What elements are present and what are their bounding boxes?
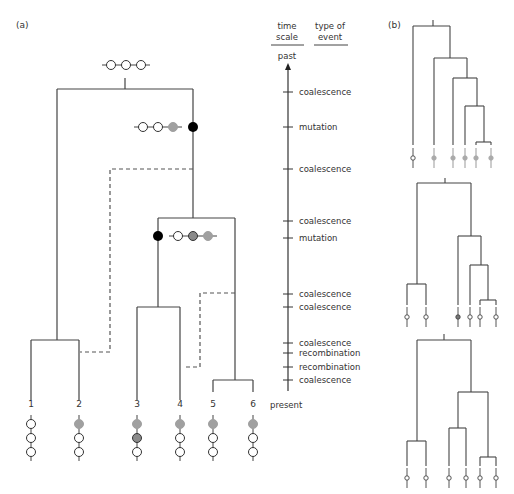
local-trees-b — [407, 20, 496, 466]
tree2-leaf-marker — [405, 307, 409, 327]
tree3-leaf-marker — [405, 468, 409, 488]
recombination-path-2 — [183, 293, 235, 367]
allele-white — [249, 448, 258, 457]
tree3-leaf-marker — [464, 468, 468, 488]
header-event-line1: type of — [315, 21, 346, 31]
mutation-dot-1 — [188, 122, 198, 132]
allele-white — [176, 434, 185, 443]
leaf-haplotype-6 — [249, 415, 258, 461]
panel-b-label: (b) — [388, 20, 401, 30]
leaf-haplotype-3 — [133, 415, 142, 461]
tree1-leaf-marker — [474, 148, 478, 168]
mutation1-haplotype — [134, 123, 182, 132]
local-tree-3 — [407, 334, 496, 466]
leaf-label-3: 3 — [134, 399, 140, 409]
allele-white — [75, 448, 84, 457]
allele-grey — [204, 232, 213, 241]
local-tree-1 — [413, 20, 491, 145]
allele-grey — [176, 420, 185, 429]
allele-white — [174, 232, 183, 241]
allele-grey — [75, 420, 84, 429]
leaf-haplotype-2 — [75, 415, 84, 461]
event-label-recombination: recombination — [299, 362, 360, 372]
leaf-label-6: 6 — [250, 399, 256, 409]
event-label-coalescence: coalescence — [299, 216, 351, 226]
past-label: past — [278, 51, 297, 61]
allele-white — [27, 420, 36, 429]
tree2-leaf-marker — [424, 307, 428, 327]
allele-darkgrey — [133, 434, 142, 443]
leaf-label-2: 2 — [76, 399, 82, 409]
allele-white — [154, 123, 163, 132]
event-label-coalescence: coalescence — [299, 375, 351, 385]
tree1-leaf-marker — [432, 148, 436, 168]
tree2-leaf-marker — [456, 307, 460, 327]
mutation-dot-2 — [153, 231, 163, 241]
panel-a-label: (a) — [16, 20, 29, 30]
allele-white — [139, 123, 148, 132]
event-label-coalescence: coalescence — [299, 338, 351, 348]
allele-white — [137, 61, 146, 70]
tree1-leaf-marker — [463, 148, 467, 168]
allele-grey — [249, 420, 258, 429]
event-label-coalescence: coalescence — [299, 289, 351, 299]
header-event-line2: event — [318, 32, 343, 42]
allele-white — [133, 448, 142, 457]
tree2-leaf-marker — [468, 307, 472, 327]
leaf-haplotype-4 — [176, 415, 185, 461]
allele-white — [27, 434, 36, 443]
tree3-leaf-marker — [447, 468, 451, 488]
tree3-leaf-marker — [424, 468, 428, 488]
leaf-haplotype-1 — [27, 415, 36, 461]
tree1-leaf-marker — [411, 148, 415, 168]
tree2-leaf-marker — [478, 307, 482, 327]
event-label-coalescence: coalescence — [299, 87, 351, 97]
allele-white — [75, 434, 84, 443]
allele-white — [209, 448, 218, 457]
event-label-mutation: mutation — [299, 122, 338, 132]
allele-white — [122, 61, 131, 70]
time-scale: time scale type of event past coalescenc… — [270, 21, 360, 410]
leaf-haplotype-5 — [209, 415, 218, 461]
leaf-label-5: 5 — [210, 399, 216, 409]
tree2-leaf-marker — [494, 307, 498, 327]
allele-darkgrey — [189, 232, 198, 241]
allele-grey — [169, 123, 178, 132]
event-label-coalescence: coalescence — [299, 164, 351, 174]
allele-grey — [133, 420, 142, 429]
event-label-recombination: recombination — [299, 348, 360, 358]
figure: (a) (b) 1 2 — [0, 0, 514, 494]
tree3-leaf-marker — [494, 468, 498, 488]
tree3-leaf-marker — [478, 468, 482, 488]
allele-white — [176, 448, 185, 457]
header-time-line1: time — [277, 21, 296, 31]
leaf-labels: 1 2 3 4 5 6 — [28, 399, 256, 409]
tree1-leaf-marker — [451, 148, 455, 168]
header-time-line2: scale — [276, 32, 298, 42]
allele-white — [107, 61, 116, 70]
local-tree-2 — [407, 178, 496, 305]
allele-grey — [209, 420, 218, 429]
allele-white — [209, 434, 218, 443]
present-label: present — [270, 400, 303, 410]
ancestral-haplotype — [102, 61, 150, 70]
local-tree-leaf-markers — [405, 148, 498, 488]
leaf-label-1: 1 — [28, 399, 34, 409]
allele-white — [27, 448, 36, 457]
leaf-label-4: 4 — [177, 399, 183, 409]
leaf-haplotypes — [27, 415, 258, 461]
tree1-leaf-marker — [489, 148, 493, 168]
allele-white — [249, 434, 258, 443]
time-arrow-icon — [285, 63, 291, 70]
mutation2-haplotype — [169, 232, 217, 241]
event-label-coalescence: coalescence — [299, 302, 351, 312]
event-label-mutation: mutation — [299, 233, 338, 243]
